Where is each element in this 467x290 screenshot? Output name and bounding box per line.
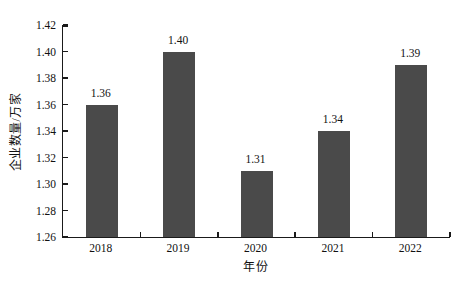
y-axis-tick [63,77,68,79]
x-axis-tick-label: 2020 [226,241,286,255]
bar-2018 [86,105,118,238]
bar-2021 [318,131,350,237]
x-axis-tick-label: 2021 [303,241,363,255]
y-axis-tick-label: 1.32 [14,151,56,165]
y-axis-tick [63,51,68,53]
y-axis-tick [63,130,68,132]
x-axis-tick-label: 2019 [148,241,208,255]
y-axis-tick-label: 1.34 [14,124,56,138]
bar-value-label: 1.39 [388,46,432,60]
y-axis-tick-label: 1.28 [14,204,56,218]
bar-chart-figure: 企业数量/万家 年份 1.261.281.301.321.341.361.381… [0,0,467,290]
y-axis-tick [63,236,68,238]
y-axis-tick-label: 1.36 [14,98,56,112]
x-axis-tick [140,232,142,237]
y-axis-tick-label: 1.30 [14,177,56,191]
bar-value-label: 1.36 [79,86,123,100]
x-axis-title: 年份 [62,260,449,275]
x-axis-tick [294,232,296,237]
bar-2019 [163,52,195,238]
x-axis-tick [217,232,219,237]
bar-value-label: 1.31 [234,152,278,166]
y-axis-tick [63,24,68,26]
y-axis-tick [63,183,68,185]
y-axis-tick [63,157,68,159]
bar-value-label: 1.34 [311,112,355,126]
x-axis-tick [372,232,374,237]
x-axis-tick [449,232,451,237]
bar-2020 [241,171,273,237]
y-axis-tick [63,210,68,212]
bar-value-label: 1.40 [156,33,200,47]
y-axis-tick-label: 1.38 [14,71,56,85]
y-axis-tick [63,104,68,106]
y-axis-tick-label: 1.40 [14,45,56,59]
x-axis-tick-label: 2022 [380,241,440,255]
x-axis-tick-label: 2018 [71,241,131,255]
bar-2022 [395,65,427,237]
y-axis-tick-label: 1.42 [14,18,56,32]
y-axis-tick-label: 1.26 [14,230,56,244]
